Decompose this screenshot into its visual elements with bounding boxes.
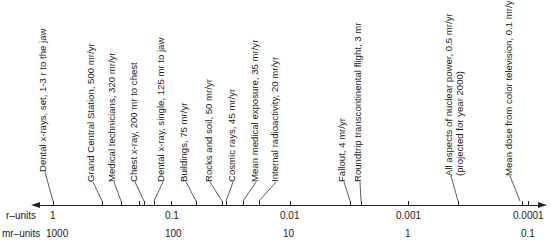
mr-units-label: mr–units (2, 228, 40, 239)
mr-tick-label: 1 (405, 228, 411, 239)
tick-internal (259, 201, 260, 206)
tick-mean-medical (243, 201, 244, 206)
annotation-transcontinental-flight: Roundtrip transcontinental flight, 3 mr (353, 23, 363, 182)
tick-0.001r (408, 201, 409, 206)
tick-0.01r (290, 201, 291, 206)
annotation-color-television: Mean dose from color television, 0.1 mr/… (504, 0, 514, 176)
tick-0.1r (171, 201, 172, 206)
tick-minor (139, 201, 140, 206)
mr-tick-label: 100 (165, 228, 182, 239)
tick-fallout (350, 201, 351, 206)
axis-arrow-right-icon (538, 202, 547, 208)
annotation-chest-xray: Chest x-ray, 200 mr to chest (129, 62, 139, 182)
tick-cosmic (226, 201, 227, 206)
annotation-rocks-soil: Rocks and soil, 50 mr/yr (204, 79, 214, 182)
tick-dental-single (154, 201, 155, 206)
tick-0.0001r (528, 201, 529, 206)
tick-1r (53, 201, 54, 206)
annotation-medical-technicians: Medical technicians, 320 mr/yr (107, 52, 117, 182)
r-tick-label: 0.01 (280, 210, 299, 221)
tick-buildings (196, 201, 197, 206)
annotation-dental-single: Dental x-ray, single, 125 mr to jaw (156, 38, 166, 182)
tick-grand-central (102, 201, 103, 206)
tick-nuclear (458, 201, 459, 206)
annotation-nuclear-power: All aspects of nuclear power, 0.5 mr/yr (444, 13, 454, 176)
tick-rocks-soil (222, 201, 223, 206)
annotation-buildings: Buildings, 75 mr/yr (179, 103, 189, 182)
tick-color-tv (522, 201, 523, 206)
tick-medical-tech (121, 201, 122, 206)
mr-tick-label: 10 (283, 228, 294, 239)
r-units-label: r–units (6, 210, 36, 221)
mr-tick-label: 0.1 (521, 228, 535, 239)
r-tick-label: 0.0001 (513, 210, 544, 221)
mr-tick-label: 1000 (46, 228, 68, 239)
annotation-fallout: Fallout, 4 mr/yr (337, 118, 347, 182)
tick-flight (361, 201, 362, 206)
annotation-mean-medical: Mean medical exposure, 35 mr/yr (250, 40, 260, 182)
annotation-cosmic-rays: Cosmic rays, 45 mr/yr (227, 89, 237, 182)
r-tick-label: 0.1 (165, 210, 179, 221)
tick-chest-xray (144, 201, 145, 206)
annotation-dental-set: Dental x-rays, set, 1-3 r to the jaw (38, 29, 48, 172)
r-tick-label: 1 (50, 210, 56, 221)
annotation-grand-central: Grand Central Station, 500 mr/yr (86, 43, 96, 182)
annotation-internal-radioactivity: Internal radioactivity, 20 mr/yr (270, 57, 280, 182)
annotation-nuclear-power-note: (projected for year 2000) (455, 71, 465, 176)
scale-axis (36, 205, 540, 206)
r-tick-label: 0.001 (396, 210, 421, 221)
